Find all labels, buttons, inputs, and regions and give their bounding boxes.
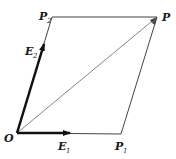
diagonal-o-p [17, 17, 157, 133]
label-p2-sub: 2 [46, 17, 52, 25]
label-p1-sub: 1 [123, 147, 127, 155]
label-o: O [4, 132, 14, 145]
label-e1-sub: 1 [66, 147, 70, 155]
label-p: P [161, 11, 171, 24]
edge-p1-p [121, 17, 157, 134]
label-e2-sub: 2 [32, 52, 38, 60]
parallelogram-diagram: O P P 2 P 1 E 1 E 2 [0, 0, 176, 159]
